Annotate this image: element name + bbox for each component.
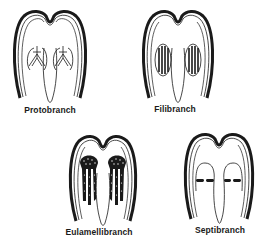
- panel-filibranch: [141, 8, 215, 104]
- protobranch-figure: [12, 8, 88, 104]
- filibranch-figure: [141, 8, 215, 104]
- eulamellibranch-figure: [68, 133, 138, 227]
- panel-septibranch: [183, 131, 255, 225]
- label-protobranch: Protobranch: [24, 105, 76, 115]
- septibranch-figure: [183, 131, 255, 225]
- panel-eulamellibranch: [68, 133, 138, 227]
- panel-protobranch: [12, 8, 88, 104]
- label-eulamellibranch: Eulamellibranch: [65, 227, 132, 237]
- label-septibranch: Septibranch: [195, 225, 245, 235]
- label-filibranch: Filibranch: [154, 104, 196, 114]
